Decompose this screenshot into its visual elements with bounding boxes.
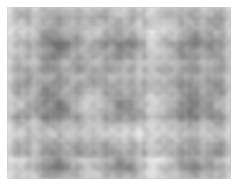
texture-blur-wrapper	[7, 7, 231, 179]
image-viewport	[0, 0, 237, 187]
noise-texture-plate	[7, 7, 231, 179]
vertical-grain-layer	[7, 7, 231, 179]
